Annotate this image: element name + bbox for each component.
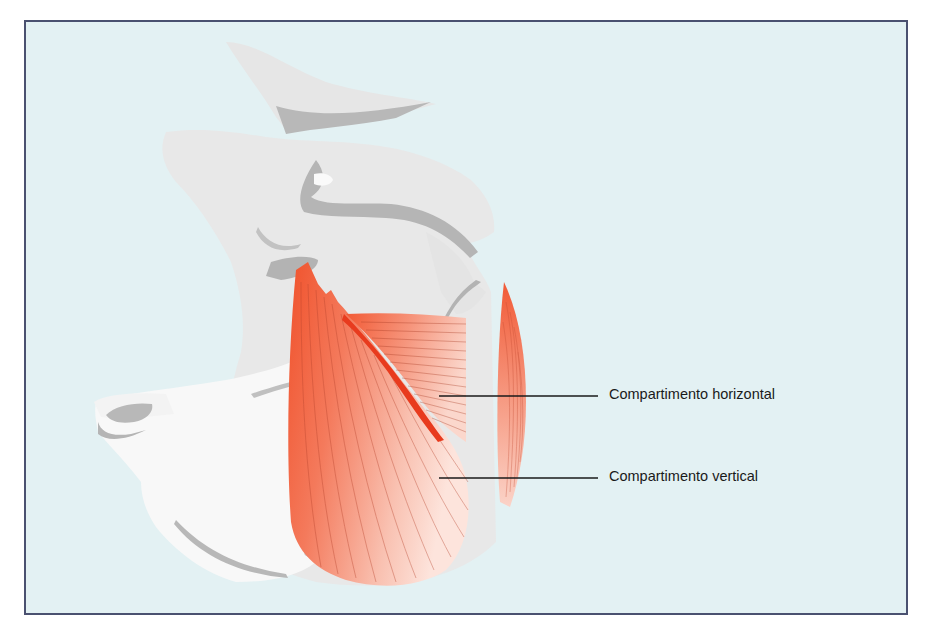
label-compartimento-horizontal: Compartimento horizontal bbox=[609, 385, 775, 403]
label-compartimento-vertical: Compartimento vertical bbox=[609, 467, 758, 485]
anatomical-illustration bbox=[26, 22, 906, 613]
lower-bone-group bbox=[94, 360, 322, 582]
figure-frame: Compartimento horizontal Compartimento v… bbox=[24, 20, 908, 615]
posterior-muscle-sliver bbox=[497, 282, 526, 507]
